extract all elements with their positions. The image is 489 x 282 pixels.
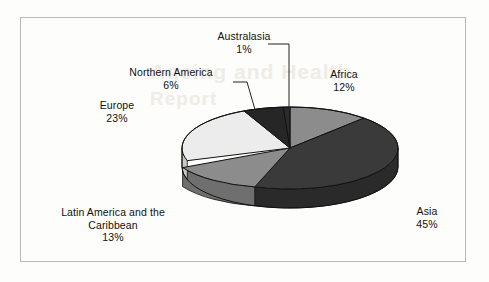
slice-label-africa: Africa 12% [311, 68, 377, 93]
slice-label-northern-america: Northern America 6% [109, 66, 233, 91]
slice-label-asia-percent: 45% [400, 218, 454, 231]
slice-label-europe: Europe 23% [83, 99, 151, 124]
slice-label-australasia-name: Australasia [196, 30, 292, 43]
slice-label-europe-percent: 23% [83, 112, 151, 125]
slice-label-europe-name: Europe [83, 99, 151, 112]
slice-label-asia-name: Asia [400, 205, 454, 218]
slice-label-latin-america-percent: 13% [35, 231, 191, 244]
slice-label-australasia: Australasia 1% [196, 30, 292, 55]
slice-label-northern-america-name: Northern America [109, 66, 233, 79]
slice-label-australasia-percent: 1% [196, 43, 292, 56]
slice-label-northern-america-percent: 6% [109, 79, 233, 92]
slice-label-latin-america-name-line1: Latin America and the [35, 206, 191, 219]
pie-chart-figure: Ageing and Health Report Australasia 1 [0, 0, 489, 282]
slice-label-asia: Asia 45% [400, 205, 454, 230]
slice-label-latin-america-name-line2: Caribbean [35, 219, 191, 232]
slice-label-africa-name: Africa [311, 68, 377, 81]
leader-line-northern-america [233, 82, 256, 113]
slice-label-latin-america: Latin America and the Caribbean 13% [35, 206, 191, 244]
slice-label-africa-percent: 12% [311, 81, 377, 94]
